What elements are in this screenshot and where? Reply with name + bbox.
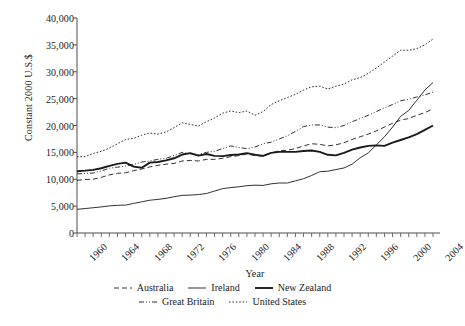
legend-item-united-states[interactable]: United States <box>229 297 306 307</box>
legend-item-great-britain[interactable]: Great Britain <box>139 297 214 307</box>
x-tick-label: 1960 <box>87 241 109 263</box>
legend-item-ireland[interactable]: Ireland <box>188 283 239 293</box>
legend-item-australia[interactable]: Australia <box>114 283 174 293</box>
x-tick-label: 1996 <box>378 241 400 263</box>
legend-line-sample <box>229 298 247 306</box>
legend-line-sample <box>114 284 132 292</box>
legend-item-label: Australia <box>137 283 174 293</box>
legend-row-1: AustraliaIrelandNew Zealand <box>0 283 445 293</box>
chart-legend: AustraliaIrelandNew Zealand Great Britai… <box>0 283 445 307</box>
x-tick-label: 1984 <box>281 241 303 263</box>
x-tick-label: 1968 <box>152 241 174 263</box>
x-tick-label: 1988 <box>314 241 336 263</box>
legend-line-sample <box>255 284 273 292</box>
legend-item-new-zealand[interactable]: New Zealand <box>255 283 332 293</box>
legend-item-label: United States <box>252 297 306 307</box>
x-axis-label: Year <box>77 268 433 279</box>
x-tick-label: 1964 <box>119 241 141 263</box>
x-tick-label: 1980 <box>249 241 271 263</box>
x-tick-label: 1972 <box>184 241 206 263</box>
legend-line-sample <box>139 298 157 306</box>
legend-item-label: Great Britain <box>162 297 214 307</box>
x-tick-label: 2004 <box>443 241 465 263</box>
legend-item-label: Ireland <box>211 283 239 293</box>
x-tick-label: 2000 <box>411 241 433 263</box>
legend-item-label: New Zealand <box>278 283 332 293</box>
x-tick-label: 1992 <box>346 241 368 263</box>
legend-line-sample <box>188 284 206 292</box>
legend-row-2: Great BritainUnited States <box>0 297 445 307</box>
x-tick-label: 1976 <box>216 241 238 263</box>
